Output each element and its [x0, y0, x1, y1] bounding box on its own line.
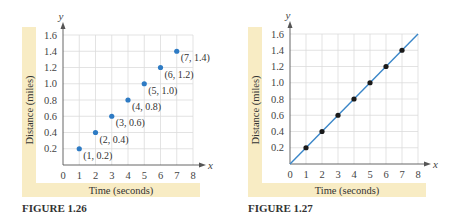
x-tick-label: 2: [93, 170, 98, 181]
data-point: [383, 64, 388, 69]
x-tick-label: 4: [125, 170, 131, 181]
y-tick-label: 0.4: [271, 126, 285, 137]
data-point: [335, 113, 340, 118]
y-tick-label: 0.2: [44, 143, 57, 154]
y-tick-label: 0.6: [44, 111, 57, 122]
x-axis-variable: x: [432, 158, 438, 170]
y-tick-label: 1.0: [271, 77, 284, 88]
x-axis-variable: x: [207, 159, 213, 171]
x-axis-label: Time (seconds): [315, 185, 380, 197]
data-label: (6, 1.2): [165, 69, 194, 81]
x-tick-label: 1: [77, 170, 82, 181]
chart-1: xy0123456780.20.40.60.81.01.21.41.6Time …: [22, 10, 213, 214]
data-point: [174, 49, 179, 54]
x-axis-arrow-icon: [199, 163, 206, 168]
x-tick-label: 3: [109, 170, 114, 181]
data-point: [399, 48, 404, 53]
figure-label: FIGURE 1.27: [248, 202, 313, 214]
y-tick-label: 1.0: [44, 78, 57, 89]
x-tick-label: 7: [399, 169, 404, 180]
y-axis-variable: y: [285, 9, 291, 21]
x-tick-label: 0: [60, 170, 65, 181]
x-axis-arrow-icon: [424, 162, 431, 167]
y-tick-label: 1.4: [44, 46, 58, 57]
y-tick-label: 1.6: [271, 29, 284, 40]
data-point: [109, 114, 114, 119]
x-tick-label: 0: [287, 169, 292, 180]
data-label: (7, 1.4): [181, 52, 210, 64]
x-tick-label: 5: [142, 170, 147, 181]
x-tick-label: 8: [190, 170, 195, 181]
data-point: [158, 65, 163, 70]
y-tick-label: 1.6: [44, 30, 57, 41]
x-tick-label: 7: [174, 170, 179, 181]
figure-label: FIGURE 1.26: [22, 202, 87, 214]
data-point: [303, 145, 308, 150]
y-axis-label: Distance (miles): [250, 75, 262, 145]
x-tick-label: 6: [383, 169, 388, 180]
x-tick-label: 3: [335, 169, 340, 180]
x-tick-label: 4: [351, 169, 357, 180]
y-axis-arrow-icon: [61, 22, 66, 29]
chart-2: xy0123456780.20.40.60.81.01.21.41.6Time …: [248, 9, 438, 214]
data-label: (1, 0.2): [83, 150, 112, 162]
data-label: (3, 0.6): [116, 117, 145, 129]
data-point: [367, 80, 372, 85]
data-point: [142, 81, 147, 86]
x-tick-label: 8: [415, 169, 420, 180]
x-tick-label: 5: [367, 169, 372, 180]
x-axis-label: Time (seconds): [89, 185, 154, 197]
y-axis-label: Distance (miles): [24, 75, 36, 145]
x-tick-label: 6: [158, 170, 163, 181]
y-tick-label: 0.8: [271, 94, 284, 105]
data-label: (4, 0.8): [132, 101, 161, 113]
data-point: [351, 96, 356, 101]
y-tick-label: 0.2: [271, 142, 284, 153]
x-tick-label: 1: [303, 169, 308, 180]
x-tick-label: 2: [319, 169, 324, 180]
data-label: (5, 1.0): [148, 85, 177, 97]
y-tick-label: 0.4: [44, 127, 58, 138]
y-tick-label: 1.2: [44, 62, 57, 73]
data-point: [125, 97, 130, 102]
y-tick-label: 0.8: [44, 95, 57, 106]
data-point: [93, 130, 98, 135]
data-label: (2, 0.4): [100, 134, 129, 146]
y-tick-label: 1.2: [271, 61, 284, 72]
y-axis-variable: y: [58, 10, 64, 22]
figure-canvas: xy0123456780.20.40.60.81.01.21.41.6Time …: [0, 0, 463, 220]
data-point: [319, 129, 324, 134]
data-point: [77, 146, 82, 151]
y-axis-arrow-icon: [288, 21, 293, 28]
y-tick-label: 1.4: [271, 45, 285, 56]
y-tick-label: 0.6: [271, 110, 284, 121]
